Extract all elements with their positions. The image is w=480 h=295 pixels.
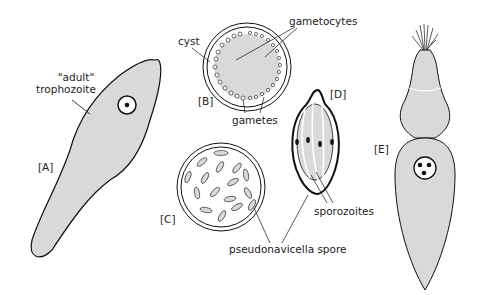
panel-tag-e: [E] (374, 144, 389, 155)
panel-tag-b: [B] (198, 96, 213, 107)
spore-d (282, 90, 339, 243)
panel-tag-a: [A] (38, 162, 53, 173)
pseudonavicella-spore-label: pseudonavicella spore (229, 244, 347, 255)
trophozoite-label: trophozoite (26, 84, 106, 95)
panel-tag-c: [C] (160, 214, 176, 225)
gametocytes-label: gametocytes (289, 16, 357, 27)
gametes-label: gametes (232, 115, 278, 126)
gregarine-life-cycle-diagram: "adult" trophozoite [A] cyst gametocytes… (0, 0, 480, 295)
sporozoites-label: sporozoites (314, 206, 374, 217)
gregarine-e (395, 24, 455, 290)
adult-quote-label: "adult" (48, 72, 104, 83)
cyst-label: cyst (178, 36, 200, 47)
panel-tag-d: [D] (330, 89, 346, 100)
cyst-c (177, 143, 270, 243)
